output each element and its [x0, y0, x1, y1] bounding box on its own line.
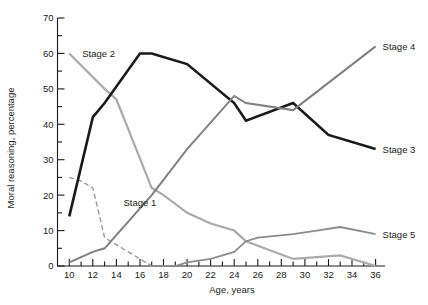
y-tick-label: 10: [43, 225, 54, 236]
x-tick-label: 32: [323, 269, 334, 280]
x-tick-label: 24: [229, 269, 240, 280]
y-tick-group: 010203040506070: [43, 12, 65, 271]
x-tick-label: 14: [111, 269, 122, 280]
y-tick-label: 50: [43, 83, 54, 94]
x-tick-label: 26: [253, 269, 264, 280]
chart-svg: 010203040506070 101214161820222426283032…: [0, 0, 428, 305]
series-group: [69, 46, 375, 266]
x-tick-label: 36: [370, 269, 381, 280]
series-label-stage-3: Stage 3: [383, 144, 416, 155]
series-line-stage-3: [69, 53, 375, 216]
y-tick-label: 20: [43, 190, 54, 201]
x-tick-label: 12: [88, 269, 99, 280]
x-tick-label: 22: [205, 269, 216, 280]
series-line-stage-4: [69, 46, 375, 262]
x-tick-label: 20: [182, 269, 193, 280]
series-line-stage-1: [69, 177, 151, 266]
y-tick-label: 30: [43, 154, 54, 165]
x-tick-label: 30: [300, 269, 311, 280]
series-label-stage-1: Stage 1: [124, 197, 157, 208]
x-tick-label: 28: [276, 269, 287, 280]
x-tick-label: 16: [135, 269, 146, 280]
x-tick-label: 18: [158, 269, 169, 280]
series-label-stage-4: Stage 4: [383, 41, 416, 52]
y-tick-label: 40: [43, 119, 54, 130]
x-tick-label: 10: [64, 269, 75, 280]
series-label-stage-5: Stage 5: [383, 229, 416, 240]
x-tick-label: 34: [347, 269, 358, 280]
y-tick-label: 0: [48, 260, 53, 271]
series-line-stage-2: [69, 53, 375, 266]
y-tick-label: 60: [43, 48, 54, 59]
x-tick-group: 1012141618202224262830323436: [64, 259, 381, 280]
series-line-stage-5: [152, 227, 376, 266]
y-tick-label: 70: [43, 12, 54, 23]
series-label-stage-2: Stage 2: [82, 48, 115, 59]
x-axis-title: Age, years: [209, 284, 255, 295]
y-axis-title: Moral reasoning, percentage: [5, 88, 16, 209]
moral-reasoning-line-chart: 010203040506070 101214161820222426283032…: [0, 0, 428, 305]
